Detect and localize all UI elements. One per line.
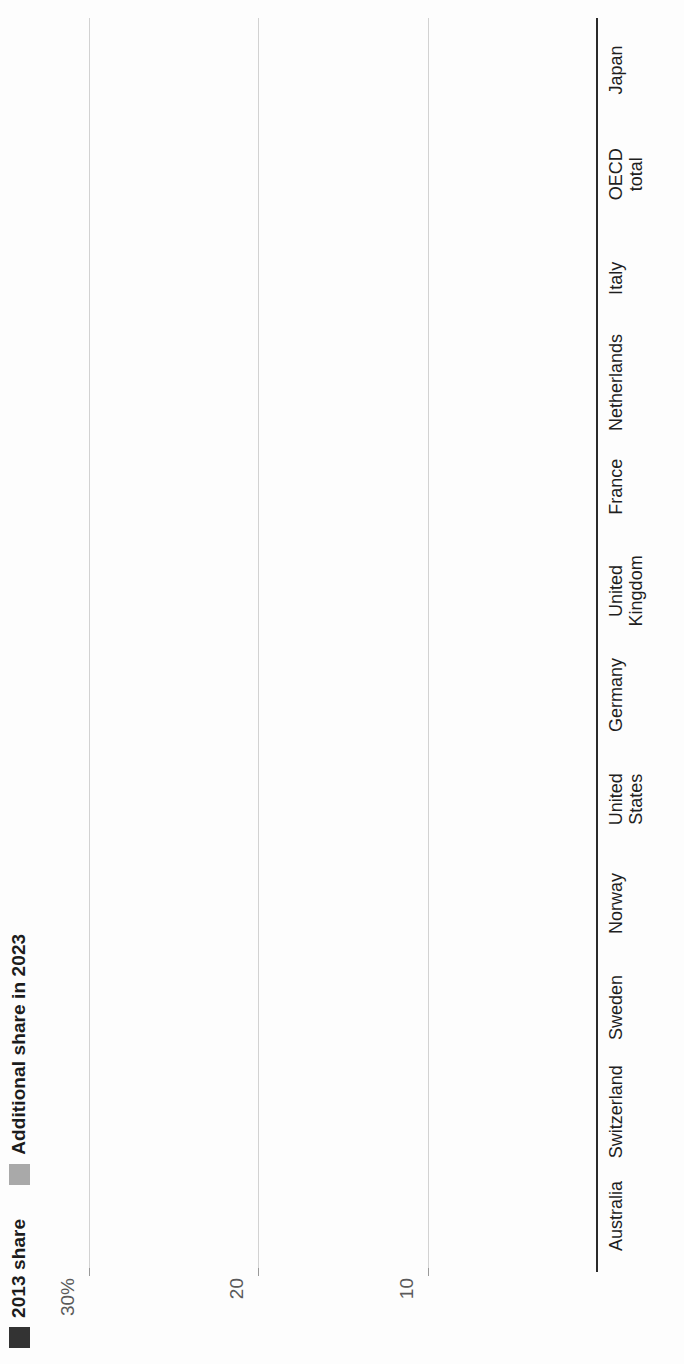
y-axis-tick-mark [258, 1268, 259, 1276]
bar-column [56, 122, 598, 226]
bar-column [56, 18, 598, 122]
bar-column [56, 851, 598, 955]
y-axis-tick-label: 20 [226, 1278, 248, 1299]
bar-column [56, 747, 598, 851]
category-label: Sweden [604, 955, 666, 1059]
category-label: OECD total [604, 122, 666, 226]
bar-column [56, 1164, 598, 1268]
y-axis-tick-mark [89, 1268, 90, 1276]
legend-label-2013-share: 2013 share [8, 1219, 30, 1318]
bar-column [56, 643, 598, 747]
category-label: Italy [604, 226, 666, 330]
category-axis-labels: AustraliaSwitzerlandSwedenNorwayUnited S… [604, 18, 666, 1268]
category-label: Netherlands [604, 330, 666, 434]
category-label: United States [604, 747, 666, 851]
category-label: Germany [604, 643, 666, 747]
category-label: Australia [604, 1164, 666, 1268]
category-label: Japan [604, 18, 666, 122]
bar-column [56, 1060, 598, 1164]
y-axis-tick-label: 30% [57, 1278, 79, 1316]
legend-label-additional-share: Additional share in 2023 [8, 934, 30, 1155]
category-label: Norway [604, 851, 666, 955]
category-label: Switzerland [604, 1060, 666, 1164]
plot-inner: 30%2010 [56, 18, 598, 1268]
bar-column [56, 435, 598, 539]
category-label: France [604, 435, 666, 539]
y-axis-tick-label: 10 [396, 1278, 418, 1299]
chart-legend: 2013 share Additional share in 2023 [8, 934, 30, 1348]
bar-column [56, 955, 598, 1059]
stacked-bar-chart: 2013 share Additional share in 2023 30%2… [0, 0, 684, 1364]
bar-column [56, 226, 598, 330]
bar-column [56, 539, 598, 643]
legend-item-additional-share-2023: Additional share in 2023 [8, 934, 30, 1185]
axis-baseline [596, 18, 598, 1272]
legend-swatch-icon-2013-share [9, 1327, 30, 1348]
rotated-page-stage: 2013 share Additional share in 2023 30%2… [0, 0, 684, 1364]
legend-swatch-icon-additional-share [9, 1164, 30, 1185]
legend-item-2013-share: 2013 share [8, 1219, 30, 1348]
bars-group [56, 18, 598, 1268]
plot-area: 30%2010 [56, 18, 598, 1268]
y-axis-tick-mark [428, 1268, 429, 1276]
category-label: United Kingdom [604, 539, 666, 643]
bar-column [56, 330, 598, 434]
